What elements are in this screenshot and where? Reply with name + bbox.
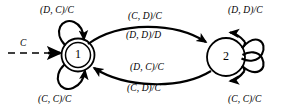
transition-label-self-1-bottom: (C, C)/C — [38, 95, 72, 105]
transition-label-self-1-top: (D, C)/C — [40, 6, 74, 16]
fsm-diagram: 1 2 C (D, C)/C (C, C)/C (C, D)/C (D, D)/… — [0, 0, 284, 110]
transition-label-2-to-1-b: (C, D)/C — [127, 84, 161, 94]
transition-label-1-to-2-b: (D, D)/D — [126, 31, 161, 41]
transition-label-self-2-bottom: (C, C)/C — [228, 95, 262, 105]
transition-self-2-bottom-join — [242, 66, 245, 71]
state-2-label: 2 — [216, 50, 236, 62]
transition-label-1-to-2-a: (C, D)/C — [128, 12, 162, 22]
state-1-label: 1 — [68, 48, 88, 60]
entry-arrow-label: C — [20, 39, 26, 49]
transition-label-2-to-1-a: (D, C)/C — [130, 63, 164, 73]
transition-label-self-2-top: (D, D)/C — [228, 6, 263, 16]
transition-self-2-top-join — [242, 42, 245, 48]
